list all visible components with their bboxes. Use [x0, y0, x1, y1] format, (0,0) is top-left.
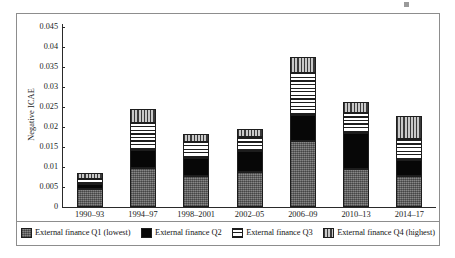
- bar-segment-q3: [183, 142, 209, 158]
- bar-segment-q1: [343, 169, 369, 207]
- y-tick-mark: [62, 87, 65, 88]
- y-tick-label: 0.035: [14, 63, 58, 71]
- bar-stack: [396, 0, 422, 207]
- legend-swatch-icon: [232, 228, 243, 238]
- stacked-bar-chart: Negative ICAE 00.0050.010.0150.020.0250.…: [0, 0, 455, 258]
- bar-segment-q1: [183, 176, 209, 207]
- y-tick: 0.04: [14, 47, 58, 48]
- y-tick: 0.02: [14, 127, 58, 128]
- y-tick-label: 0: [14, 203, 58, 211]
- x-tick-label: 1990–93: [63, 210, 116, 219]
- y-tick-mark: [62, 207, 65, 208]
- bar-segment-q4: [290, 57, 316, 73]
- y-tick-mark: [62, 67, 65, 68]
- bar-stack: [130, 0, 156, 207]
- bar-segment-q4: [77, 173, 103, 179]
- bar-stack: [237, 0, 263, 207]
- legend-swatch-icon: [21, 228, 32, 238]
- x-tick-label: 2006–09: [276, 210, 329, 219]
- y-axis-line: [62, 24, 63, 208]
- bar-segment-q3: [77, 179, 103, 184]
- x-tick-label: 2010–13: [329, 210, 382, 219]
- bar-segment-q4: [343, 102, 369, 113]
- y-tick-label: 0.01: [14, 163, 58, 171]
- y-tick-mark: [62, 167, 65, 168]
- bar-segment-q3: [130, 123, 156, 149]
- bar-segment-q2: [237, 151, 263, 172]
- bar-segment-q2: [77, 184, 103, 189]
- y-tick: 0.035: [14, 67, 58, 68]
- bar-segment-q1: [290, 141, 316, 207]
- chart-legend: External finance Q1 (lowest)External fin…: [17, 221, 439, 243]
- bar-segment-q1: [396, 176, 422, 207]
- bar-segment-q2: [343, 133, 369, 169]
- bar-stack: [343, 0, 369, 207]
- legend-label: External finance Q1 (lowest): [35, 228, 131, 237]
- x-tick-label: 1998–2001: [170, 210, 223, 219]
- legend-item-q1[interactable]: External finance Q1 (lowest): [21, 228, 131, 238]
- y-tick-label: 0.025: [14, 103, 58, 111]
- legend-label: External finance Q3: [246, 228, 312, 237]
- bar-segment-q4: [183, 134, 209, 142]
- x-tick-label: 2014–17: [383, 210, 436, 219]
- y-tick-label: 0.005: [14, 183, 58, 191]
- legend-swatch-icon: [323, 228, 334, 238]
- y-tick-label: 0.03: [14, 83, 58, 91]
- y-tick-label: 0.02: [14, 123, 58, 131]
- y-tick-mark: [62, 107, 65, 108]
- y-tick: 0.03: [14, 87, 58, 88]
- y-tick: 0: [14, 207, 58, 208]
- bar-stack: [290, 0, 316, 207]
- bar-segment-q4: [237, 129, 263, 137]
- bar-segment-q2: [130, 150, 156, 168]
- bar-segment-q1: [77, 189, 103, 207]
- y-tick: 0.01: [14, 167, 58, 168]
- y-tick-label: 0.045: [14, 23, 58, 31]
- bar-segment-q2: [396, 160, 422, 176]
- y-tick-label: 0.04: [14, 43, 58, 51]
- bar-segment-q1: [130, 168, 156, 207]
- x-tick-label: 2002–05: [223, 210, 276, 219]
- y-tick-label: 0.015: [14, 143, 58, 151]
- legend-label: External finance Q2: [155, 228, 221, 237]
- y-tick-mark: [62, 47, 65, 48]
- bar-segment-q2: [290, 115, 316, 141]
- y-tick: 0.045: [14, 27, 58, 28]
- y-tick-mark: [62, 147, 65, 148]
- y-tick-mark: [62, 187, 65, 188]
- x-tick-label: 1994–97: [116, 210, 169, 219]
- bar-segment-q2: [183, 158, 209, 176]
- legend-item-q2[interactable]: External finance Q2: [141, 228, 221, 238]
- y-tick-mark: [62, 27, 65, 28]
- legend-item-q3[interactable]: External finance Q3: [232, 228, 312, 238]
- bar-segment-q4: [130, 109, 156, 123]
- bar-stack: [183, 0, 209, 207]
- y-tick: 0.015: [14, 147, 58, 148]
- y-tick-mark: [62, 127, 65, 128]
- bar-segment-q3: [343, 113, 369, 133]
- bar-segment-q3: [396, 139, 422, 160]
- legend-item-q4[interactable]: External finance Q4 (highest): [323, 228, 435, 238]
- bar-segment-q4: [396, 116, 422, 139]
- legend-label: External finance Q4 (highest): [337, 228, 435, 237]
- y-tick: 0.025: [14, 107, 58, 108]
- bar-stack: [77, 0, 103, 207]
- x-axis-line: [62, 207, 436, 208]
- y-tick: 0.005: [14, 187, 58, 188]
- bar-segment-q3: [290, 73, 316, 115]
- legend-swatch-icon: [141, 228, 152, 238]
- bar-segment-q1: [237, 172, 263, 207]
- bar-segment-q3: [237, 137, 263, 151]
